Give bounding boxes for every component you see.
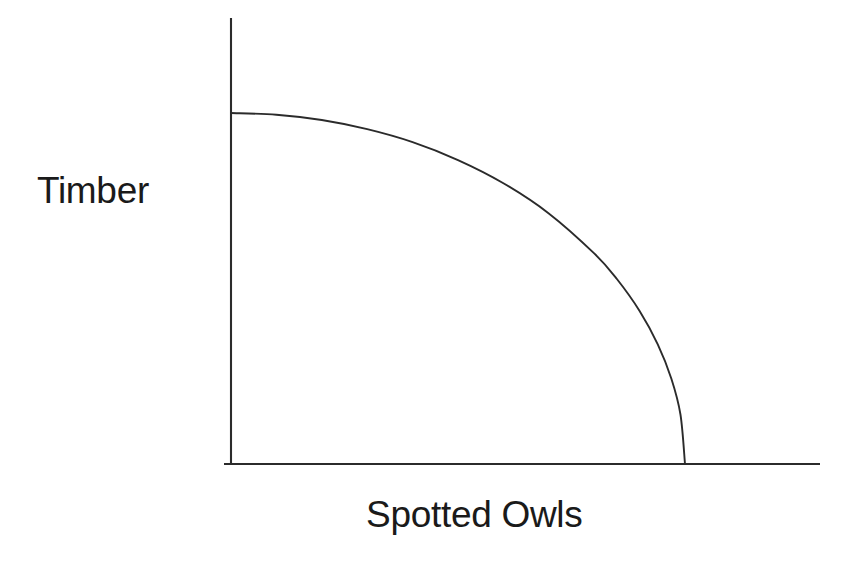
ppf-curve-path [231,113,685,464]
y-axis-label: Timber [37,172,149,209]
ppf-chart-figure: Timber Spotted Owls [0,0,850,577]
x-axis-label: Spotted Owls [366,496,582,533]
chart-canvas [0,0,850,577]
